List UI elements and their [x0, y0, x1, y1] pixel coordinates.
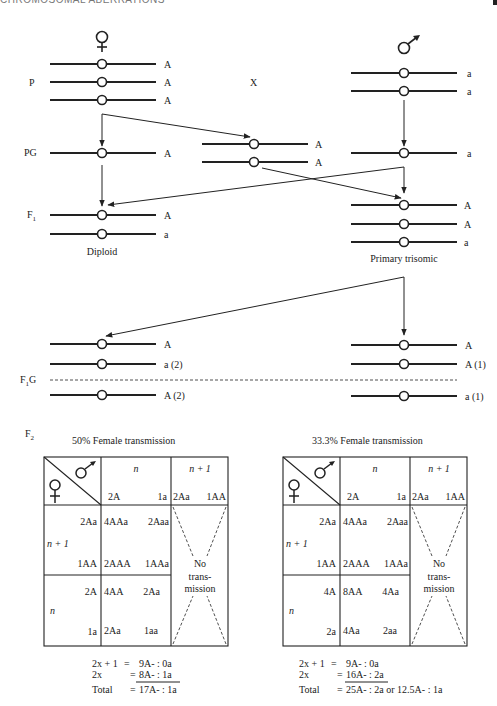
svg-text:1AAa: 1AAa [384, 558, 408, 569]
generation-label-f2: F2 [25, 428, 35, 442]
svg-text:n: n [134, 463, 139, 474]
svg-text:1AAa: 1AAa [145, 558, 169, 569]
svg-text:Total: Total [92, 684, 113, 695]
svg-text:2AAA: 2AAA [343, 558, 370, 569]
female-symbol-icon [97, 32, 108, 53]
svg-text:2Aa: 2Aa [412, 491, 429, 502]
svg-text:4A: 4A [324, 586, 337, 597]
f1-trisomic-chromosomes: A A a Primary trisomic [351, 200, 472, 264]
svg-text:A (2): A (2) [164, 390, 185, 402]
svg-text:2A: 2A [347, 491, 360, 502]
svg-text:n: n [50, 605, 55, 616]
svg-text:=: = [130, 669, 136, 680]
parent-female-chromosomes: A A A [50, 59, 172, 106]
svg-text:4AAa: 4AAa [343, 516, 367, 527]
svg-text:A: A [164, 148, 172, 159]
female-symbol-icon [50, 480, 60, 503]
svg-text:a: a [164, 229, 169, 240]
svg-text:17A- : 1a: 17A- : 1a [139, 684, 177, 695]
svg-text:A: A [315, 157, 323, 168]
table-title: 50% Female transmission [72, 435, 175, 446]
svg-text:4Aa: 4Aa [382, 586, 399, 597]
svg-text:A: A [464, 200, 472, 211]
svg-text:4Aa: 4Aa [343, 625, 360, 636]
svg-text:9A- : 0a: 9A- : 0a [139, 658, 172, 669]
svg-text:a (2): a (2) [164, 359, 183, 371]
generation-label-pg: PG [24, 147, 37, 158]
svg-text:A: A [164, 59, 172, 70]
svg-text:Total: Total [299, 684, 320, 695]
gamete-male-haploid: a [351, 148, 472, 159]
svg-text:2A: 2A [108, 491, 121, 502]
svg-text:n + 1: n + 1 [428, 463, 450, 474]
svg-text:n + 1: n + 1 [286, 538, 308, 549]
parent-male-chromosomes: a a [351, 68, 472, 97]
svg-text:A (1): A (1) [465, 359, 486, 371]
svg-text:2x: 2x [299, 669, 309, 680]
svg-text:1a: 1a [88, 626, 98, 637]
gamete-female-disomic: A A [202, 139, 323, 168]
svg-text:16A- : 2a: 16A- : 2a [346, 669, 384, 680]
svg-text:A: A [465, 340, 473, 351]
svg-text:2x: 2x [92, 669, 102, 680]
svg-text:25A- : 2a or 12.5A- : 1a: 25A- : 2a or 12.5A- : 1a [346, 684, 443, 695]
generation-label-f1: F1 [27, 209, 37, 223]
female-symbol-icon [289, 480, 299, 503]
svg-text:=: = [124, 658, 130, 669]
f1g-right-gametes: A A (1) a (1) [351, 340, 486, 403]
svg-text:a: a [467, 68, 472, 79]
svg-text:a (1): a (1) [465, 391, 484, 403]
svg-text:2x + 1: 2x + 1 [299, 658, 325, 669]
svg-text:8A- : 1a: 8A- : 1a [139, 669, 172, 680]
svg-text:1a: 1a [397, 491, 407, 502]
svg-text:1AA: 1AA [317, 558, 337, 569]
svg-text:1AA: 1AA [446, 491, 466, 502]
svg-text:2Aa: 2Aa [143, 586, 160, 597]
svg-text:A: A [164, 95, 172, 106]
svg-text:2a: 2a [327, 626, 337, 637]
svg-text:2Aa: 2Aa [173, 491, 190, 502]
svg-text:=: = [331, 658, 337, 669]
generation-label-p: P [29, 77, 35, 88]
gamete-female-haploid: A [50, 148, 172, 159]
f1g-left-gametes: A a (2) A (2) [50, 339, 185, 402]
svg-text:2Aa: 2Aa [319, 516, 336, 527]
svg-text:2aa: 2aa [383, 625, 397, 636]
svg-text:4AAa: 4AAa [104, 516, 128, 527]
punnett-table-50-percent: 50% Female transmission n 2A 1a n + 1 2A… [44, 435, 228, 695]
svg-text:A: A [464, 219, 472, 230]
svg-text:=: = [337, 669, 343, 680]
svg-text:9A- : 0a: 9A- : 0a [346, 658, 379, 669]
svg-text:mission: mission [184, 583, 215, 594]
svg-text:a: a [467, 86, 472, 97]
svg-text:No: No [194, 558, 206, 569]
caption-diploid: Diploid [87, 246, 118, 257]
svg-text:trans-: trans- [428, 571, 451, 582]
svg-text:1AA: 1AA [207, 491, 227, 502]
svg-text:No: No [433, 558, 445, 569]
arrows-pg-to-f1 [102, 165, 404, 206]
male-symbol-icon [76, 461, 96, 478]
svg-text:n: n [289, 605, 294, 616]
svg-text:mission: mission [423, 583, 454, 594]
svg-text:2Aaa: 2Aaa [387, 516, 409, 527]
svg-text:trans-: trans- [189, 571, 212, 582]
svg-text:2x + 1: 2x + 1 [92, 658, 118, 669]
male-symbol-icon [315, 461, 335, 478]
svg-text:n: n [373, 463, 378, 474]
cross-symbol: X [250, 77, 258, 88]
arrows-f1-to-f1g [106, 277, 404, 336]
svg-text:8AA: 8AA [343, 586, 363, 597]
svg-text:A: A [164, 77, 172, 88]
f1-diploid-chromosomes: A a Diploid [50, 210, 172, 257]
svg-text:1AA: 1AA [78, 558, 98, 569]
svg-text:1a: 1a [158, 491, 168, 502]
svg-text:2AAA: 2AAA [104, 558, 131, 569]
generation-label-f1g: F1G [20, 374, 36, 388]
table-title: 33.3% Female transmission [312, 435, 423, 446]
svg-text:A: A [164, 339, 172, 350]
svg-text:2Aaa: 2Aaa [148, 516, 170, 527]
svg-text:=: = [337, 684, 343, 695]
trisomic-inheritance-diagram: P PG F1 F1G F2 X A A A a a A A A a [0, 0, 497, 706]
svg-text:2Aa: 2Aa [80, 516, 97, 527]
